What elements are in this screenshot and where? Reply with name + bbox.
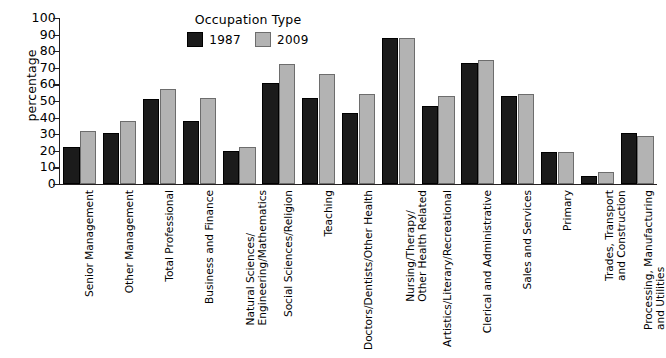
bar (399, 38, 415, 184)
y-tick-label: 20 (24, 145, 56, 157)
y-tick-mark (53, 18, 59, 19)
y-axis-tick-labels: 1009080706050403020100 (24, 0, 56, 358)
bar (518, 94, 534, 184)
bar-group (498, 18, 538, 184)
x-tick-label: Artistics/Literary/Recreational (442, 190, 454, 347)
y-tick-mark (53, 101, 59, 102)
bar (598, 172, 614, 184)
y-tick-mark (53, 68, 59, 69)
bar (279, 64, 295, 184)
legend: Occupation Type 19872009 (158, 12, 338, 47)
x-tick-label: Sales and Services (522, 190, 534, 290)
y-tick-label: 70 (24, 62, 56, 74)
x-tick-label: Business and Finance (204, 190, 216, 304)
bar (422, 106, 438, 184)
x-axis-category-labels: Senior ManagementOther ManagementTotal P… (60, 184, 657, 358)
bar (302, 98, 318, 184)
bar (342, 113, 358, 184)
bar (461, 63, 477, 184)
bar-group (339, 18, 379, 184)
bar-group (577, 18, 617, 184)
legend-title: Occupation Type (158, 12, 338, 27)
x-tick-label: Teaching (323, 190, 335, 237)
bar (319, 74, 335, 184)
bar-group (418, 18, 458, 184)
legend-item: 1987 (187, 32, 241, 47)
bar (200, 98, 216, 184)
bar (183, 121, 199, 184)
legend-swatch (187, 32, 203, 47)
y-tick-label: 50 (24, 95, 56, 107)
bar-group (538, 18, 578, 184)
x-tick-label: Clerical and Administrative (482, 190, 494, 333)
bar (581, 176, 597, 184)
bar (80, 131, 96, 184)
y-tick-mark (53, 184, 59, 185)
bar (103, 133, 119, 184)
bar (558, 152, 574, 184)
bar (160, 89, 176, 184)
bar-group (458, 18, 498, 184)
y-tick-mark (53, 118, 59, 119)
plot-area (60, 18, 657, 184)
x-tick-label: Total Professional (164, 190, 176, 282)
bar (382, 38, 398, 184)
bar (478, 60, 494, 185)
bar-group (617, 18, 657, 184)
legend-label: 2009 (277, 33, 309, 47)
bar (262, 83, 278, 184)
y-tick-label: 80 (24, 45, 56, 57)
y-tick-mark (53, 35, 59, 36)
y-tick-mark (53, 84, 59, 85)
bar (120, 121, 136, 184)
y-tick-label: 0 (24, 178, 56, 190)
bar (223, 151, 239, 184)
y-tick-mark (53, 51, 59, 52)
x-tick-label: Primary (562, 190, 574, 231)
bar-group (100, 18, 140, 184)
x-tick-label: Senior Management (84, 190, 96, 297)
bar (541, 152, 557, 184)
y-tick-label: 40 (24, 112, 56, 124)
x-tick-label: Trades, Transport and Construction (604, 190, 627, 281)
bar (143, 99, 159, 184)
x-tick-label: Natural Sciences/ Engineering/Mathematic… (245, 190, 268, 325)
bar-group (378, 18, 418, 184)
legend-label: 1987 (209, 33, 241, 47)
y-tick-mark (53, 167, 59, 168)
legend-swatch (255, 32, 271, 47)
x-tick-label: Other Management (124, 190, 136, 293)
y-tick-mark (53, 151, 59, 152)
y-tick-label: 90 (24, 29, 56, 41)
x-tick-label: Doctors/Dentists/Other Health (363, 190, 375, 350)
y-tick-label: 100 (24, 12, 56, 24)
x-tick-label: Social Sciences/Religion (283, 190, 295, 317)
bar (637, 136, 653, 184)
bar (63, 147, 79, 184)
bar (359, 94, 375, 184)
y-tick-label: 10 (24, 161, 56, 173)
y-tick-mark (53, 134, 59, 135)
y-tick-label: 30 (24, 128, 56, 140)
bar (501, 96, 517, 184)
bar-group (60, 18, 100, 184)
x-tick-label: Processing, Manufacturing and Utilities (643, 190, 666, 330)
legend-items: 19872009 (158, 32, 338, 47)
legend-item: 2009 (255, 32, 309, 47)
bar (438, 96, 454, 184)
bar (621, 133, 637, 184)
bar (239, 147, 255, 184)
y-tick-label: 60 (24, 78, 56, 90)
x-tick-label: Nursing/Therapy/ Other Health Related (405, 190, 428, 302)
